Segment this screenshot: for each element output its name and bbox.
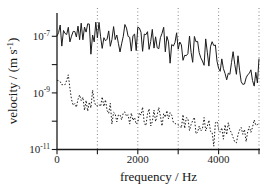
x-tick-label: 2000 <box>127 153 150 165</box>
solid-trace-path <box>57 22 259 86</box>
plot-canvas: 02000400010-710-910-11 <box>0 0 272 193</box>
y-axis-label-text: ) <box>5 38 20 42</box>
dashed-trace-path <box>57 75 259 146</box>
spectrum-figure: 02000400010-710-910-11 velocity / (m s-1… <box>0 0 272 193</box>
x-tick-label: 4000 <box>208 153 231 165</box>
y-axis-label-text: velocity / (m s <box>5 50 20 125</box>
y-tick-label: 10-11 <box>29 142 50 155</box>
y-axis-label-superscript: -1 <box>5 42 15 50</box>
x-tick-label: 0 <box>54 153 60 165</box>
x-axis-label: frequency / Hz <box>57 169 260 184</box>
y-tick-label: 10-7 <box>33 29 50 42</box>
y-tick-label: 10-9 <box>33 85 50 98</box>
y-axis-label: velocity / (m s-1) <box>3 38 20 125</box>
